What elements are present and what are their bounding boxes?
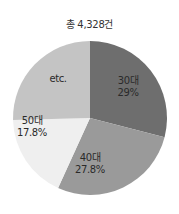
slice-label: 30대29% xyxy=(117,75,138,98)
slice-label: etc. xyxy=(49,73,66,84)
pie-chart: 30대29%40대27.8%50대17.8%etc. xyxy=(0,0,179,214)
